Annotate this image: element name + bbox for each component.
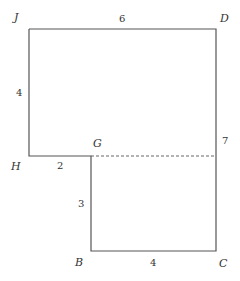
vertex-G: G xyxy=(93,137,102,150)
length-BC: 4 xyxy=(150,257,156,268)
vertex-J: J xyxy=(12,11,19,24)
length-JD: 6 xyxy=(119,13,125,24)
vertex-H: H xyxy=(10,160,21,173)
length-HG: 2 xyxy=(57,160,63,171)
length-GB: 3 xyxy=(78,198,84,209)
vertex-C: C xyxy=(219,257,228,270)
length-DC: 7 xyxy=(222,135,228,146)
vertex-B: B xyxy=(74,256,83,269)
vertex-D: D xyxy=(219,12,229,25)
length-JH: 4 xyxy=(16,87,22,98)
outline xyxy=(29,29,216,251)
l-shaped-figure: J D H G B C 6 4 2 3 4 7 xyxy=(0,0,240,281)
